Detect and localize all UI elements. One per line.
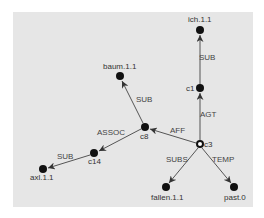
- node-c8[interactable]: [141, 123, 149, 131]
- node-label-fallen: fallen.1.1: [151, 193, 184, 202]
- node-label-c8: c8: [140, 132, 149, 141]
- edge-label-sub-ich: SUB: [199, 53, 215, 62]
- node-labels: ich.1.1 c1 baum.1.1 c8 c3 c14 axl.1.1 fa…: [30, 15, 246, 202]
- node-baum[interactable]: [116, 72, 124, 80]
- edge-label-sub-axl: SUB: [57, 152, 73, 161]
- node-label-ich: ich.1.1: [188, 15, 212, 24]
- node-ich[interactable]: [196, 26, 204, 34]
- node-axl[interactable]: [39, 165, 47, 173]
- edge-label-agt: AGT: [200, 110, 217, 119]
- edge-label-aff: AFF: [170, 126, 185, 135]
- node-label-past: past.0: [224, 193, 246, 202]
- node-c1[interactable]: [196, 84, 204, 92]
- edge-c3-fallen: [169, 148, 198, 183]
- node-past[interactable]: [230, 183, 238, 191]
- edge-label-subs: SUBS: [166, 155, 188, 164]
- edge-label-temp: TEMP: [212, 155, 234, 164]
- node-c14[interactable]: [90, 149, 98, 157]
- node-label-baum: baum.1.1: [103, 62, 137, 71]
- edge-label-assoc: ASSOC: [97, 128, 125, 137]
- node-fallen[interactable]: [162, 183, 170, 191]
- semantic-network-graph: SUB AGT AFF SUB ASSOC SUB SUBS TEMP ich.…: [0, 0, 264, 218]
- node-label-c3: c3: [204, 140, 213, 149]
- node-c3[interactable]: [197, 141, 203, 147]
- node-label-c1: c1: [186, 84, 195, 93]
- node-label-c14: c14: [88, 157, 101, 166]
- edge-label-sub-baum: SUB: [136, 95, 152, 104]
- edge-c3-past: [202, 148, 231, 183]
- nodes: [39, 26, 238, 191]
- node-label-axl: axl.1.1: [30, 173, 54, 182]
